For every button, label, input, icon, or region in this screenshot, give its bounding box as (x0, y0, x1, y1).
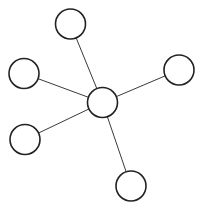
node-center (88, 88, 118, 118)
node-left-upper (9, 59, 39, 89)
node-right (164, 55, 194, 85)
edge-center-to-bottom (107, 117, 126, 172)
node-left-lower (10, 125, 40, 155)
star-graph-diagram (0, 0, 201, 209)
nodes-layer (9, 9, 194, 201)
edge-center-to-right (116, 76, 165, 97)
node-top (56, 9, 86, 39)
edge-center-to-top (76, 38, 97, 89)
edge-center-to-left-lower (39, 109, 89, 133)
node-bottom (116, 171, 146, 201)
edge-center-to-left-upper (38, 79, 88, 98)
